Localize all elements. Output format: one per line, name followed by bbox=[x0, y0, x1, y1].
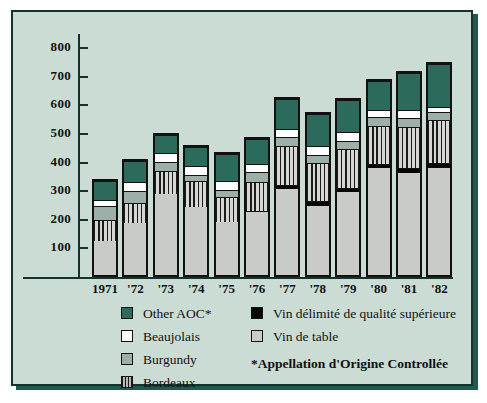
bar-segment-burgundy bbox=[368, 117, 390, 126]
x-axis-tick-label: '82 bbox=[416, 281, 462, 297]
bar-76[interactable] bbox=[244, 137, 270, 277]
bar-82[interactable] bbox=[426, 62, 452, 277]
bar-segment-bordeaux bbox=[276, 146, 298, 185]
bar-segment-vin-de-table bbox=[155, 194, 177, 275]
bar-segment-burgundy bbox=[216, 190, 238, 198]
bar-segment-vin-de-table bbox=[185, 207, 207, 276]
bar-segment-other-aoc bbox=[94, 181, 116, 199]
bar-segment-vin-de-table bbox=[246, 212, 268, 275]
bar-segment-vin-de-table bbox=[307, 206, 329, 275]
bar-72[interactable] bbox=[122, 159, 148, 277]
legend-swatch-gray-green bbox=[121, 353, 133, 365]
bar-segment-burgundy bbox=[185, 175, 207, 182]
bar-segment-beaujolais bbox=[246, 164, 268, 172]
bar-segment-other-aoc bbox=[398, 73, 420, 110]
legend-label: Burgundy bbox=[143, 350, 197, 369]
bar-80[interactable] bbox=[366, 79, 392, 277]
bar-79[interactable] bbox=[335, 98, 361, 277]
bar-75[interactable] bbox=[214, 152, 240, 277]
bar-segment-burgundy bbox=[155, 162, 177, 170]
bar-segment-vin-de-table bbox=[276, 189, 298, 275]
legend-swatch-dark-green bbox=[121, 307, 133, 319]
legend-swatch-light-gray bbox=[251, 330, 263, 342]
bar-1971[interactable] bbox=[92, 179, 118, 277]
bar-segment-bordeaux bbox=[368, 126, 390, 164]
bar-segment-other-aoc bbox=[337, 100, 359, 132]
legend-footnote: *Appellation d'Origine Controllée bbox=[251, 356, 448, 372]
bar-segment-beaujolais bbox=[124, 182, 146, 191]
bar-73[interactable] bbox=[153, 133, 179, 277]
bar-segment-other-aoc bbox=[155, 135, 177, 153]
bar-segment-bordeaux bbox=[307, 163, 329, 201]
bar-segment-vin-de-table bbox=[124, 223, 146, 275]
bar-segment-burgundy bbox=[337, 141, 359, 149]
bar-segment-beaujolais bbox=[307, 146, 329, 156]
bar-segment-burgundy bbox=[428, 112, 450, 120]
legend-label: Bordeaux bbox=[143, 373, 195, 392]
chart-figure: 100200300400500600700800 1971'72'73'74'7… bbox=[0, 0, 487, 403]
bar-segment-bordeaux bbox=[337, 149, 359, 188]
bar-segment-vin-de-table bbox=[398, 173, 420, 275]
bar-segment-bordeaux bbox=[246, 182, 268, 211]
bar-segment-bordeaux bbox=[428, 120, 450, 163]
legend-swatch-white bbox=[121, 330, 133, 342]
bar-segment-other-aoc bbox=[368, 81, 390, 110]
legend-label: Vin délimité de qualité supérieure bbox=[273, 304, 456, 323]
bar-segment-burgundy bbox=[94, 206, 116, 220]
legend-label: Other AOC* bbox=[143, 304, 212, 323]
bar-segment-burgundy bbox=[307, 155, 329, 162]
bar-segment-bordeaux bbox=[216, 197, 238, 222]
bar-segment-bordeaux bbox=[124, 203, 146, 223]
chart-legend: Other AOC*BeaujolaisBurgundyBordeaux Vin… bbox=[13, 304, 475, 384]
bar-segment-vin-de-table bbox=[428, 168, 450, 275]
bar-segment-beaujolais bbox=[276, 129, 298, 137]
bar-segment-other-aoc bbox=[246, 139, 268, 164]
bar-segment-other-aoc bbox=[185, 147, 207, 166]
bar-segment-bordeaux bbox=[185, 181, 207, 206]
bar-segment-vin-de-table bbox=[216, 222, 238, 275]
bar-segment-vin-de-table bbox=[368, 168, 390, 275]
bar-segment-burgundy bbox=[398, 118, 420, 127]
bar-78[interactable] bbox=[305, 112, 331, 277]
bar-segment-burgundy bbox=[124, 191, 146, 203]
bar-segment-beaujolais bbox=[398, 110, 420, 118]
bar-segment-vin-de-table bbox=[94, 241, 116, 275]
bar-segment-beaujolais bbox=[368, 110, 390, 118]
legend-label: Beaujolais bbox=[143, 327, 200, 346]
bar-74[interactable] bbox=[183, 145, 209, 277]
bar-segment-beaujolais bbox=[94, 200, 116, 207]
bar-segment-beaujolais bbox=[185, 166, 207, 175]
bar-segment-other-aoc bbox=[428, 64, 450, 107]
bar-segment-vin-de-table bbox=[337, 192, 359, 275]
bar-segment-other-aoc bbox=[276, 99, 298, 129]
legend-swatch-black bbox=[251, 307, 263, 319]
bar-segment-bordeaux bbox=[155, 171, 177, 194]
bar-segment-burgundy bbox=[276, 137, 298, 145]
bar-segment-bordeaux bbox=[398, 127, 420, 168]
bar-77[interactable] bbox=[274, 97, 300, 277]
bar-81[interactable] bbox=[396, 71, 422, 277]
bar-segment-beaujolais bbox=[337, 132, 359, 142]
bar-segment-beaujolais bbox=[216, 181, 238, 190]
bar-segment-other-aoc bbox=[216, 154, 238, 180]
bar-segment-bordeaux bbox=[94, 220, 116, 241]
bar-segment-beaujolais bbox=[155, 153, 177, 162]
figure-plate: 100200300400500600700800 1971'72'73'74'7… bbox=[11, 10, 473, 386]
legend-label: Vin de table bbox=[273, 327, 338, 346]
bar-segment-burgundy bbox=[246, 172, 268, 182]
bar-segment-other-aoc bbox=[124, 161, 146, 181]
legend-swatch-striped-gray bbox=[121, 376, 133, 388]
bar-segment-other-aoc bbox=[307, 114, 329, 146]
